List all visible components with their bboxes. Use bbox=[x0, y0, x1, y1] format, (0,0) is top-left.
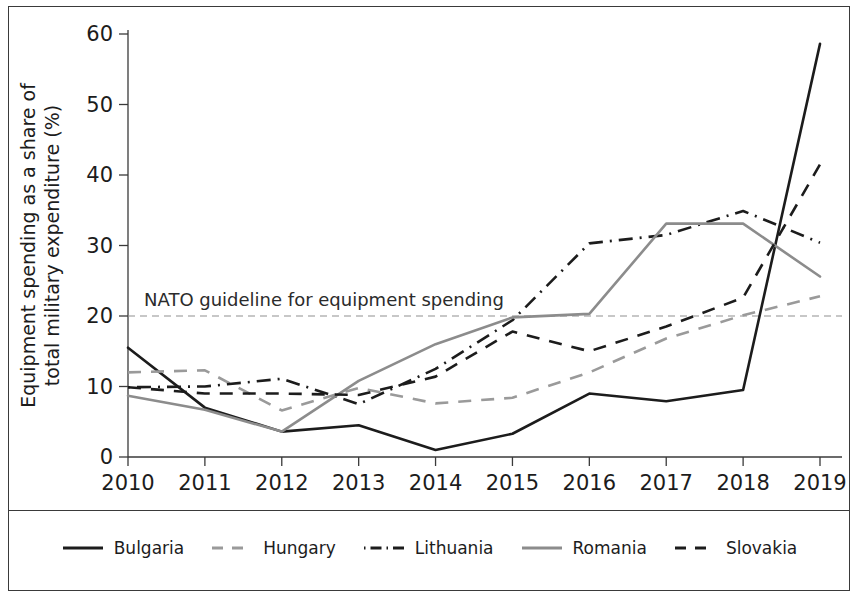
y-tick-label: 30 bbox=[86, 234, 113, 258]
y-tick-label: 20 bbox=[86, 304, 113, 328]
plot-panel: 0102030405060201020112012201320142015201… bbox=[8, 6, 850, 511]
x-tick-label: 2014 bbox=[409, 471, 462, 495]
figure-container: 0102030405060201020112012201320142015201… bbox=[0, 0, 858, 597]
y-tick-label: 50 bbox=[86, 93, 113, 117]
legend-item-slovakia[interactable]: Slovakia bbox=[673, 538, 797, 558]
legend-item-lithuania[interactable]: Lithuania bbox=[362, 538, 494, 558]
x-tick-label: 2013 bbox=[332, 471, 385, 495]
legend-panel: Bulgaria Hungary Lithuania Romania bbox=[8, 511, 850, 591]
x-tick-label: 2010 bbox=[101, 471, 154, 495]
legend-item-hungary[interactable]: Hungary bbox=[210, 538, 336, 558]
legend-swatch-slovakia-icon bbox=[673, 541, 717, 555]
y-axis-title-line1: Equipment spending as a share of bbox=[17, 82, 39, 408]
legend-swatch-romania-icon bbox=[520, 541, 564, 555]
x-tick-label: 2016 bbox=[563, 471, 616, 495]
series-line-romania bbox=[128, 224, 820, 432]
x-tick-label: 2018 bbox=[716, 471, 769, 495]
y-tick-label: 10 bbox=[86, 375, 113, 399]
y-tick-label: 0 bbox=[100, 445, 113, 469]
y-tick-label: 40 bbox=[86, 163, 113, 187]
legend-item-bulgaria[interactable]: Bulgaria bbox=[61, 538, 185, 558]
legend-swatch-lithuania-icon bbox=[362, 541, 406, 555]
line-chart: 0102030405060201020112012201320142015201… bbox=[8, 6, 850, 511]
legend-label-slovakia: Slovakia bbox=[726, 538, 797, 558]
series-line-slovakia bbox=[128, 164, 820, 395]
legend-swatch-hungary-icon bbox=[210, 541, 254, 555]
x-tick-label: 2015 bbox=[486, 471, 539, 495]
x-tick-label: 2019 bbox=[793, 471, 846, 495]
y-axis-title-line2: total military expenditure (%) bbox=[41, 105, 63, 386]
x-tick-label: 2011 bbox=[178, 471, 231, 495]
series-line-bulgaria bbox=[128, 44, 820, 450]
legend-swatch-bulgaria-icon bbox=[61, 541, 105, 555]
legend-label-lithuania: Lithuania bbox=[415, 538, 494, 558]
legend: Bulgaria Hungary Lithuania Romania bbox=[61, 538, 798, 558]
y-tick-label: 60 bbox=[86, 22, 113, 46]
legend-label-hungary: Hungary bbox=[263, 538, 336, 558]
y-axis-title: Equipment spending as a share oftotal mi… bbox=[17, 82, 63, 408]
nato-guideline-label: NATO guideline for equipment spending bbox=[144, 289, 504, 310]
legend-label-romania: Romania bbox=[573, 538, 647, 558]
legend-item-romania[interactable]: Romania bbox=[520, 538, 647, 558]
x-tick-label: 2012 bbox=[255, 471, 308, 495]
legend-label-bulgaria: Bulgaria bbox=[114, 538, 185, 558]
x-tick-label: 2017 bbox=[639, 471, 692, 495]
